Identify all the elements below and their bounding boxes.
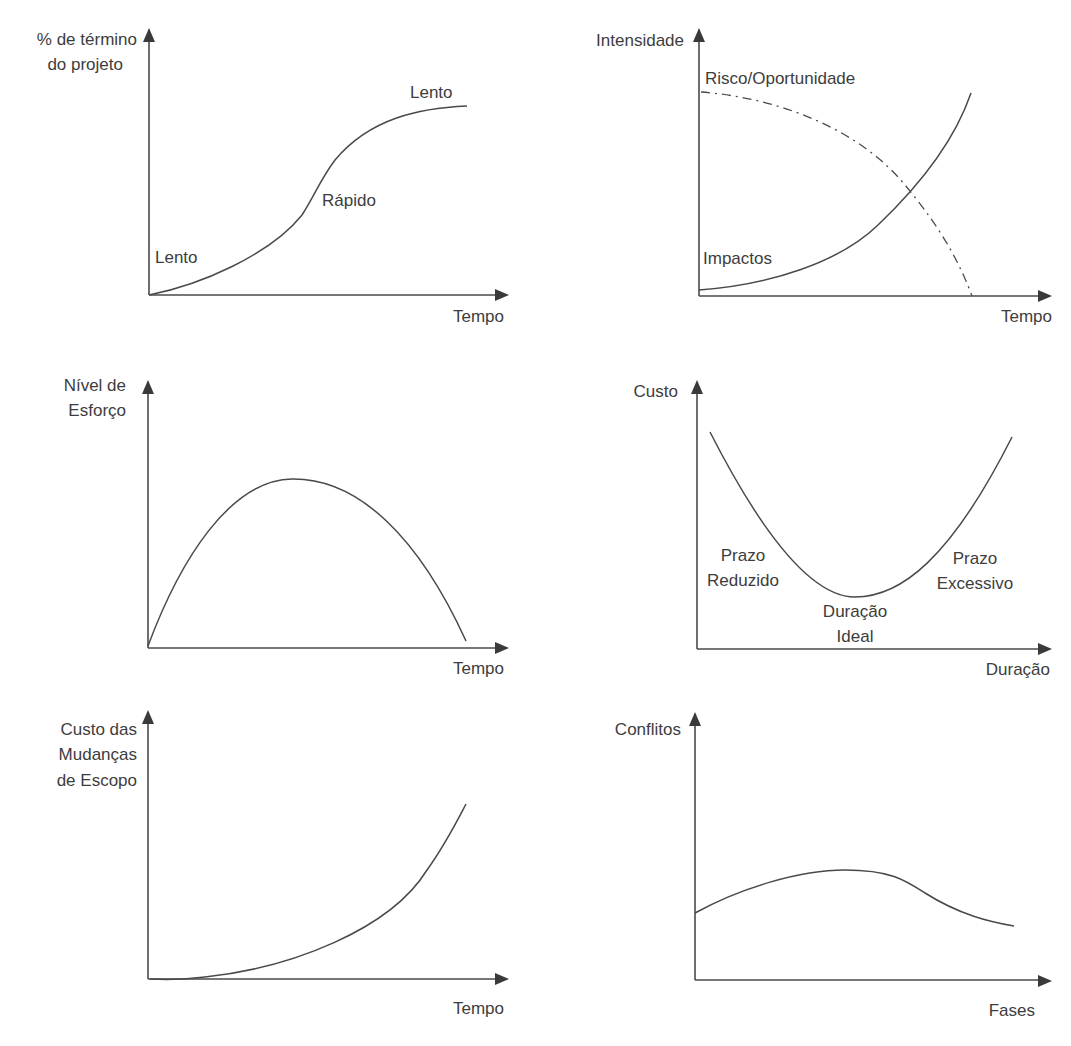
- y-axis-label: Custo das: [60, 720, 137, 739]
- y-axis-label: Esforço: [68, 401, 126, 420]
- x-axis-arrow-icon: [1038, 975, 1052, 987]
- y-axis-label: Nível de: [64, 376, 126, 395]
- annotation-slow-end: Lento: [410, 83, 453, 102]
- x-axis-arrow-icon: [495, 973, 509, 985]
- x-axis-label: Tempo: [1001, 307, 1052, 326]
- y-axis-label: Intensidade: [596, 31, 684, 50]
- x-axis-arrow-icon: [495, 642, 509, 654]
- y-axis-arrow-icon: [691, 380, 703, 394]
- x-axis-arrow-icon: [495, 289, 509, 301]
- annotation-short-deadline: Prazo: [721, 546, 765, 565]
- x-axis-label: Tempo: [453, 659, 504, 678]
- x-axis-label: Duração: [986, 660, 1050, 679]
- annotation-excessive-deadline: Prazo: [953, 549, 997, 568]
- x-axis-label: Tempo: [453, 307, 504, 326]
- y-axis-label: Mudanças: [59, 745, 137, 764]
- x-axis-label: Tempo: [453, 999, 504, 1018]
- annotation-ideal-duration: Ideal: [837, 627, 874, 646]
- conflicts-curve: [695, 870, 1014, 926]
- scope-change-cost-curve: [150, 804, 466, 979]
- annotation-fast: Rápido: [322, 191, 376, 210]
- y-axis-arrow-icon: [689, 712, 701, 726]
- x-axis-arrow-icon: [1038, 643, 1052, 655]
- effort-curve: [148, 479, 466, 646]
- annotation-excessive-deadline: Excessivo: [937, 574, 1014, 593]
- chart-risk-impact: Intensidade Tempo Risco/Oportunidade Imp…: [596, 28, 1052, 326]
- chart-effort-level: Nível de Esforço Tempo: [64, 376, 509, 678]
- annotation-slow-start: Lento: [155, 248, 198, 267]
- annotation-short-deadline: Reduzido: [707, 571, 779, 590]
- y-axis-arrow-icon: [142, 710, 154, 724]
- y-axis-arrow-icon: [693, 28, 705, 42]
- y-axis-arrow-icon: [143, 28, 155, 42]
- chart-cost-duration: Custo Duração Prazo Reduzido Duração Ide…: [634, 380, 1052, 679]
- y-axis-label: do projeto: [47, 55, 123, 74]
- y-axis-label: Custo: [634, 382, 678, 401]
- annotation-risk-opportunity: Risco/Oportunidade: [705, 69, 855, 88]
- y-axis-label: Conflitos: [615, 720, 681, 739]
- x-axis-arrow-icon: [1038, 290, 1052, 302]
- y-axis-arrow-icon: [142, 380, 154, 394]
- y-axis-label: de Escopo: [57, 771, 137, 790]
- chart-project-completion: % de término do projeto Tempo Lento Rápi…: [37, 28, 509, 326]
- y-axis-label: % de término: [37, 30, 137, 49]
- x-axis-label: Fases: [989, 1001, 1035, 1020]
- annotation-impacts: Impactos: [703, 249, 772, 268]
- chart-scope-change-cost: Custo das Mudanças de Escopo Tempo: [57, 710, 509, 1018]
- chart-conflicts: Conflitos Fases: [615, 712, 1052, 1020]
- annotation-ideal-duration: Duração: [823, 602, 887, 621]
